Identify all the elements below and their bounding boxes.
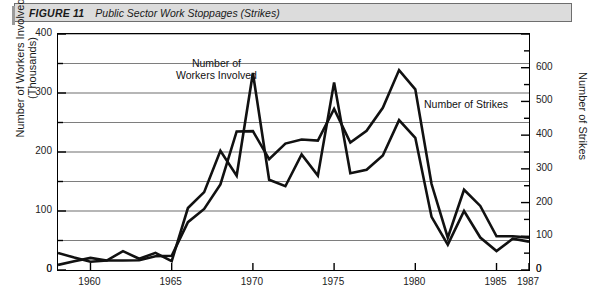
chart-svg bbox=[58, 34, 529, 270]
figure-title: Public Sector Work Stoppages (Strikes) bbox=[95, 7, 279, 19]
y-axis-left-tick-label: 400 bbox=[12, 28, 52, 38]
x-axis-tick-label: 1960 bbox=[64, 277, 114, 287]
y-axis-right-tick-label: 200 bbox=[536, 197, 576, 207]
y-axis-right-tick-label: 300 bbox=[536, 163, 576, 173]
annotation-workers: Number of Workers Involved bbox=[176, 57, 257, 81]
annotation-strikes: Number of Strikes bbox=[424, 98, 508, 110]
x-axis-tick-label: 1980 bbox=[389, 277, 439, 287]
y-axis-right-title: Number of Strikes bbox=[577, 46, 589, 186]
y-axis-left-tick-label: 300 bbox=[12, 87, 52, 97]
x-axis-tick-label: 1975 bbox=[308, 277, 358, 287]
y-axis-left-tick-label: 0 bbox=[12, 264, 52, 274]
y-axis-right-tick-label: 400 bbox=[536, 129, 576, 139]
y-axis-left-title: Number of Workers Involved (Thousands) bbox=[14, 0, 38, 168]
x-axis-tick-label: 1987 bbox=[503, 277, 553, 287]
y-axis-left-ticks bbox=[58, 34, 66, 270]
y-axis-left-tick-label: 100 bbox=[12, 205, 52, 215]
figure-caption bbox=[2, 296, 585, 303]
x-axis-tick-label: 1970 bbox=[227, 277, 277, 287]
plot-area bbox=[57, 33, 530, 271]
y-axis-right-tick-label: 600 bbox=[536, 62, 576, 72]
y-axis-right-tick-label: 100 bbox=[536, 230, 576, 240]
figure-title-bar: FIGURE 11 Public Sector Work Stoppages (… bbox=[14, 3, 572, 22]
x-axis-tick-label: 1965 bbox=[146, 277, 196, 287]
y-axis-right-tick-label: 0 bbox=[536, 264, 576, 274]
x-axis-ticks bbox=[90, 263, 529, 270]
annotation-workers-line2: Workers Involved bbox=[176, 69, 257, 81]
y-axis-left-tick-label: 200 bbox=[12, 146, 52, 156]
y-axis-right-tick-label: 500 bbox=[536, 95, 576, 105]
annotation-workers-line1: Number of bbox=[176, 57, 257, 69]
